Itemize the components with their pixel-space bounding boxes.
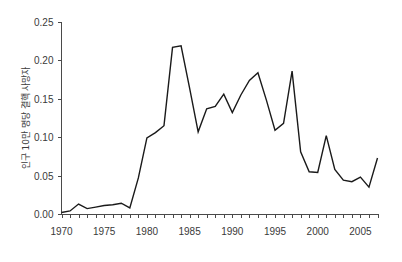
y-tick-label: 0.00	[34, 209, 54, 220]
y-tick-label: 0.20	[34, 55, 54, 66]
x-tick-label: 2000	[307, 226, 330, 237]
y-tick-label: 0.10	[34, 132, 54, 143]
x-tick-label: 1970	[50, 226, 73, 237]
x-tick-label: 1985	[178, 226, 201, 237]
x-tick-label: 2005	[349, 226, 372, 237]
x-tick-label: 1990	[221, 226, 244, 237]
y-tick-label: 0.05	[34, 171, 54, 182]
x-tick-label: 1975	[93, 226, 116, 237]
chart-canvas: 0.000.050.100.150.200.25 197019751980198…	[0, 0, 402, 262]
y-axis-title: 인구 10만 명당 결핵 사망자	[20, 66, 31, 170]
x-tick-label: 1980	[136, 226, 159, 237]
chart-background	[0, 0, 402, 262]
tuberculosis-mortality-line-chart: 0.000.050.100.150.200.25 197019751980198…	[0, 0, 402, 262]
y-tick-label: 0.25	[34, 17, 54, 28]
x-tick-label: 1995	[264, 226, 287, 237]
y-tick-label: 0.15	[34, 94, 54, 105]
